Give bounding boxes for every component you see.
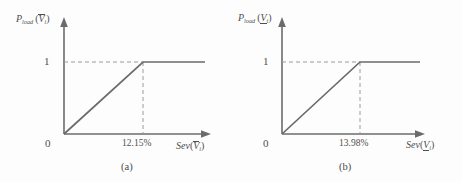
y-axis-label-a: Pload (Vi) — [16, 13, 50, 25]
panel-b-plot — [231, 0, 462, 183]
x-axis-label-b-variable: V — [423, 140, 429, 150]
x-axis-label-b-prefix: Sev — [406, 139, 420, 150]
x-axis-label-a: Sev(Vi) — [176, 140, 204, 152]
y-axis-arrow-b — [278, 17, 286, 27]
data-curve-a — [64, 62, 205, 134]
y-axis-label-a-close-paren: ) — [46, 13, 49, 24]
x-axis-label-a-close-paren: ) — [201, 140, 204, 151]
x-tick-label-b: 13.98% — [339, 139, 368, 149]
x-axis-arrow-b — [415, 130, 425, 138]
x-axis-label-b-close-paren: ) — [431, 139, 434, 150]
y-axis-label-b-variable: V — [260, 13, 266, 23]
y-tick-label-b: 1 — [263, 56, 269, 67]
x-tick-label-a: 12.15% — [122, 139, 151, 149]
y-axis-label-a-variable: V — [38, 13, 44, 24]
y-axis-label-b-close-paren: ) — [268, 12, 271, 23]
y-tick-label-a: 1 — [44, 56, 50, 67]
data-curve-b — [282, 62, 420, 134]
caption-a: (a) — [121, 162, 133, 173]
y-axis-label-a-subscript: load — [22, 18, 33, 25]
panel-a-plot — [0, 0, 231, 183]
x-axis-arrow-a — [201, 130, 211, 138]
x-axis-label-a-prefix: Sev — [176, 140, 190, 151]
y-axis-label-b: Pload (Vi) — [238, 13, 272, 24]
panel-a: Pload (Vi) 1 0 12.15% Sev(Vi) (a) — [0, 0, 231, 183]
figure-root: Pload (Vi) 1 0 12.15% Sev(Vi) (a) — [0, 0, 462, 183]
panel-b: Pload (Vi) 1 0 13.98% Sev(Vi) (b) — [231, 0, 462, 183]
origin-label-b: 0 — [263, 138, 269, 149]
caption-b: (b) — [339, 162, 351, 173]
y-axis-label-b-subscript: load — [244, 17, 255, 24]
y-axis-arrow-a — [60, 17, 68, 27]
origin-label-a: 0 — [45, 138, 51, 149]
x-axis-label-b: Sev(Vi) — [406, 140, 434, 151]
x-axis-label-a-variable: V — [193, 140, 199, 151]
